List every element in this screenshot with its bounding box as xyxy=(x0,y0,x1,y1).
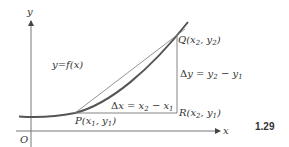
curve-label: y=f(x) xyxy=(51,59,83,70)
delta-y-label: Δy = y2 − y1 xyxy=(180,68,243,81)
figure-number: 1.29 xyxy=(255,121,275,132)
origin-label: O xyxy=(20,134,28,145)
point-r-label: R(x2, y1) xyxy=(178,107,221,120)
secant-diagram: y x O y=f(x) Q(x2, y2) Δy = y2 − y1 Δx =… xyxy=(0,0,289,147)
point-p-label: P(x1, y1) xyxy=(74,115,116,128)
x-axis-label: x xyxy=(223,125,229,136)
point-q-label: Q(x2, y2) xyxy=(178,34,221,47)
delta-x-label: Δx = x2 − x1 xyxy=(111,100,174,113)
y-axis-label: y xyxy=(26,6,33,17)
